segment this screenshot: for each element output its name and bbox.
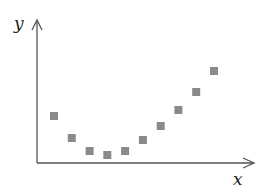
data-point-marker [103, 151, 111, 159]
data-point-marker [174, 106, 182, 114]
data-point-marker [192, 88, 200, 96]
data-points [50, 67, 218, 159]
y-axis-label: y [13, 13, 24, 33]
data-point-marker [86, 147, 94, 155]
data-point-marker [121, 147, 129, 155]
x-axis-label: x [233, 169, 243, 189]
data-point-marker [68, 134, 76, 142]
data-point-marker [139, 136, 147, 144]
data-point-marker [157, 122, 165, 130]
data-point-marker [210, 67, 218, 75]
scatter-chart: y x [0, 0, 271, 192]
data-point-marker [50, 112, 58, 120]
